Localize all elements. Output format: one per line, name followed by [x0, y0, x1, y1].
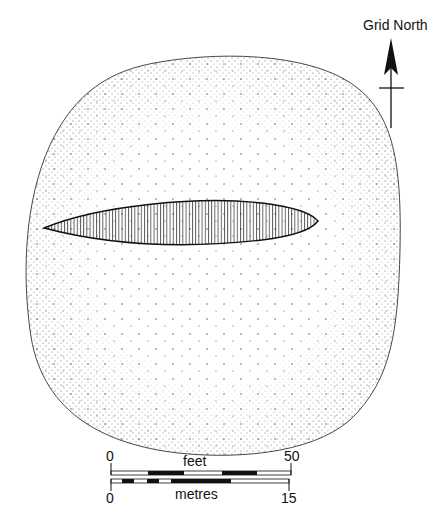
plan-drawing	[0, 0, 441, 517]
feet-max-label: 50	[284, 449, 300, 463]
mound-outline	[0, 0, 441, 517]
metres-max-label: 15	[281, 491, 297, 505]
metres-unit-label: metres	[175, 487, 218, 501]
metres-min-label: 0	[106, 491, 114, 505]
north-arrow-icon	[379, 38, 404, 128]
feet-unit-label: feet	[183, 454, 206, 468]
feet-min-label: 0	[106, 449, 114, 463]
north-arrow-label: Grid North	[363, 18, 428, 32]
site-plan-diagram: Grid North 0 feet 50 0 metres 15	[0, 0, 441, 517]
